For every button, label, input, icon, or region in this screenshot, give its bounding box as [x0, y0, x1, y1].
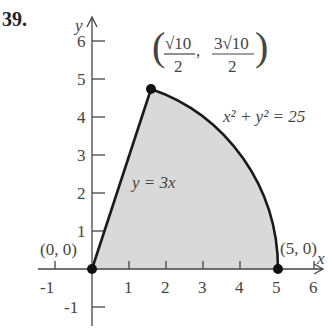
top-y-denominator: 2 — [228, 57, 237, 76]
y-tick-label: 1 — [77, 222, 86, 241]
line-equation-label: y = 3x — [130, 173, 176, 192]
right-paren: ) — [255, 24, 268, 69]
y-axis-label: y — [73, 16, 83, 35]
x-tick-label: -1 — [40, 278, 54, 297]
top-x-numerator: √10 — [165, 34, 191, 53]
y-tick-label: 4 — [77, 108, 86, 127]
point-right — [273, 264, 283, 274]
left-paren: ( — [152, 24, 165, 69]
circle-equation-label: x² + y² = 25 — [222, 107, 305, 126]
point-top — [146, 84, 156, 94]
x-tick-label: 6 — [309, 278, 318, 297]
top-x-denominator: 2 — [174, 57, 183, 76]
x-tick-label: 5 — [272, 278, 281, 297]
right-point-label: (5, 0) — [280, 239, 317, 258]
y-tick-label: 2 — [77, 184, 86, 203]
y-tick-label: -1 — [64, 298, 78, 317]
y-tick-label: 5 — [77, 70, 86, 89]
top-y-numerator: 3√10 — [214, 34, 249, 53]
x-tick-label: 3 — [198, 278, 207, 297]
x-tick-label: 4 — [235, 278, 244, 297]
y-tick-label: 3 — [77, 146, 86, 165]
origin-label: (0, 0) — [40, 240, 77, 259]
x-tick-label: 2 — [161, 278, 170, 297]
x-tick-label: 1 — [124, 278, 133, 297]
point-origin — [87, 264, 97, 274]
x-axis-label: x — [316, 249, 325, 268]
region-diagram: -1 1 2 3 4 5 6 -1 1 2 3 4 5 6 y x (0, 0)… — [0, 0, 333, 336]
comma: , — [196, 41, 200, 60]
